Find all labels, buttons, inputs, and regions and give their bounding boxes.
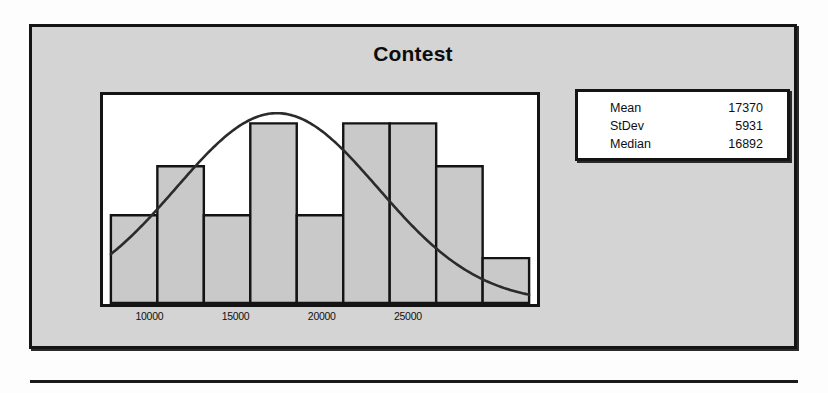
histogram-bar <box>343 123 389 303</box>
x-axis-tick-label: 20000 <box>308 310 336 322</box>
histogram-bar <box>204 215 250 303</box>
statistics-row: StDev5931 <box>610 117 763 135</box>
histogram-bar <box>436 166 482 303</box>
figure-container: Contest 10000150002000025000 Mean17370St… <box>29 24 797 349</box>
plot-panel <box>100 92 540 307</box>
statistics-label: Mean <box>610 99 641 117</box>
statistics-box: Mean17370StDev5931Median16892 <box>575 89 790 161</box>
histogram-bar <box>483 258 529 303</box>
chart-title: Contest <box>32 42 794 66</box>
histogram-bar <box>111 215 157 303</box>
plot-area <box>103 95 537 304</box>
histogram-bar <box>390 123 436 303</box>
scanned-page: Contest 10000150002000025000 Mean17370St… <box>0 0 828 393</box>
statistics-label: Median <box>610 135 651 153</box>
statistics-row: Mean17370 <box>610 99 763 117</box>
statistics-row: Median16892 <box>610 135 763 153</box>
x-axis-tick-label: 25000 <box>394 310 422 322</box>
statistics-value: 5931 <box>735 117 763 135</box>
histogram-bar <box>157 166 203 303</box>
statistics-value: 16892 <box>728 135 763 153</box>
statistics-list: Mean17370StDev5931Median16892 <box>610 99 763 153</box>
x-axis-tick-label: 15000 <box>222 310 250 322</box>
statistics-label: StDev <box>610 117 644 135</box>
page-divider-rule <box>30 380 798 383</box>
histogram-bar <box>297 215 343 303</box>
statistics-value: 17370 <box>728 99 763 117</box>
x-axis-tick-labels: 10000150002000025000 <box>100 310 540 330</box>
histogram-bar <box>250 123 296 303</box>
histogram-svg <box>103 95 537 304</box>
x-axis-tick-label: 10000 <box>136 310 164 322</box>
histogram-bars <box>111 123 529 303</box>
